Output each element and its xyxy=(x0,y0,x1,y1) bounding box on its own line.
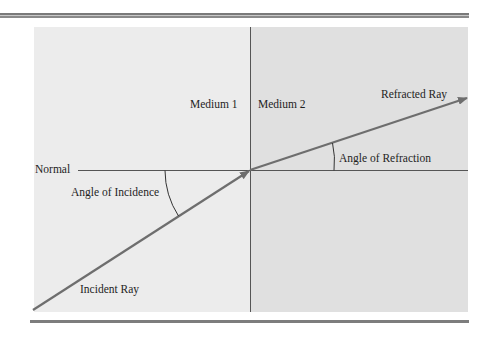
medium-2-label: Medium 2 xyxy=(258,99,306,111)
incident-ray-label: Incident Ray xyxy=(80,284,139,296)
angle-of-refraction-label: Angle of Refraction xyxy=(339,153,431,165)
refraction-diagram xyxy=(0,0,491,339)
angle-of-incidence-arc xyxy=(165,171,179,217)
refracted-ray-label: Refracted Ray xyxy=(381,89,447,101)
angle-of-refraction-arc xyxy=(333,143,335,171)
medium-1-label: Medium 1 xyxy=(190,99,238,111)
angle-of-incidence-label: Angle of Incidence xyxy=(71,187,159,199)
normal-label: Normal xyxy=(35,164,70,176)
bottom-rule xyxy=(30,320,469,323)
